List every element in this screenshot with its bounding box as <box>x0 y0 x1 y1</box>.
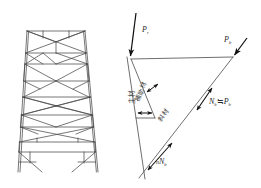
label-nNb: nNb <box>156 157 167 167</box>
figure-canvas: Pr Pb Nb≒Pb nNb 主材 補助材 斜材 <box>0 0 261 188</box>
tower-brace-panel-3 <box>24 64 89 97</box>
tower-legs <box>18 31 98 172</box>
label-Pb: Pb <box>223 35 232 45</box>
tower-brace-panel-4 <box>20 97 93 127</box>
arrow-auxiliary-member <box>147 84 158 92</box>
tower-brace-panel-5 <box>19 127 96 152</box>
label-Pr: Pr <box>141 25 149 35</box>
label-Nb-approx-Pb: Nb≒Pb <box>208 97 232 107</box>
force-diagram <box>127 57 233 179</box>
member-long-diagonal <box>139 57 233 178</box>
arrow-Pr <box>131 13 137 56</box>
arrow-Pb <box>235 38 248 55</box>
tower-truss <box>18 31 98 172</box>
label-diagonal-member: 斜材 <box>155 107 171 124</box>
force-arrows <box>131 13 248 170</box>
member-top-chord <box>131 57 233 59</box>
tower-horizontals <box>19 31 96 152</box>
figure-svg: Pr Pb Nb≒Pb nNb 主材 補助材 斜材 <box>0 0 261 188</box>
tower-base-bracing <box>19 152 96 172</box>
